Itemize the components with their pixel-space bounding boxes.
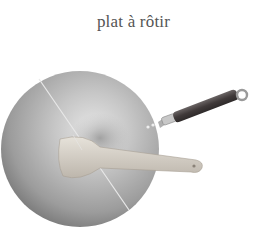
wok-handle (158, 89, 247, 128)
wok-illustration (0, 0, 267, 228)
hanging-ring-icon (237, 90, 247, 100)
